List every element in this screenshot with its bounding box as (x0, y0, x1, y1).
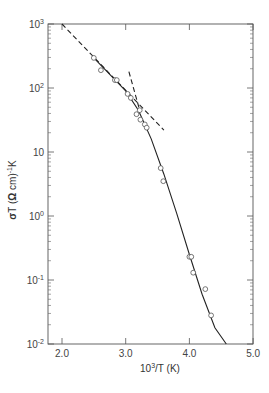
fit-solid-line (94, 58, 227, 344)
x-tick-label: 4.0 (182, 348, 196, 359)
y-tick-label: 100 (29, 210, 44, 222)
y-axis-label: σT (Ω cm)-1K (6, 160, 18, 220)
y-tick-label: 10-2 (27, 338, 44, 350)
data-point (203, 287, 208, 292)
x-tick-label: 3.0 (119, 348, 133, 359)
y-tick-label: 10-1 (27, 274, 44, 286)
data-point (138, 117, 143, 122)
y-tick-label: 103 (29, 18, 44, 30)
data-point (137, 108, 142, 113)
y-tick-label: 10 (33, 147, 45, 158)
x-axis-label: 103/T (K) (140, 362, 180, 374)
data-point (161, 179, 166, 184)
data-point (189, 254, 194, 259)
data-points (91, 56, 213, 318)
data-point (158, 166, 163, 171)
data-point (99, 68, 104, 73)
x-axis-ticks: 2.03.04.05.0 (55, 24, 260, 359)
arrhenius-plot: 1031021010010-110-2 2.03.04.05.0 103/T (… (0, 0, 269, 393)
x-tick-label: 2.0 (55, 348, 69, 359)
data-point (114, 78, 119, 83)
data-point (128, 96, 133, 101)
asymptote-high-T-line (62, 24, 164, 130)
data-point (144, 125, 149, 130)
x-tick-label: 5.0 (246, 348, 260, 359)
plot-frame (48, 24, 253, 344)
data-point (191, 270, 196, 275)
fit-lines (62, 24, 226, 344)
y-axis-ticks: 1031021010010-110-2 (27, 18, 253, 350)
y-tick-label: 102 (29, 82, 44, 94)
data-point (209, 313, 214, 318)
data-point (91, 56, 96, 61)
